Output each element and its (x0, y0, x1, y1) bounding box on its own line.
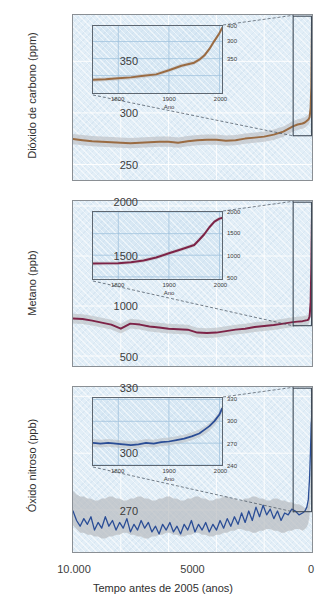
ytick-ch4-0: 500 (72, 351, 138, 363)
inset-ytick-co2-2: 400 (227, 23, 237, 29)
panel-n2o: 270 300 330 1800 1900 2000 Ano 240 270 3… (72, 386, 313, 553)
ytick-co2-0: 250 (72, 159, 138, 171)
xtick-0: 10.000 (57, 563, 91, 575)
inset-xlabel-ch4: Ano (164, 290, 175, 296)
inset-xtick-co2-2: 2000 (214, 96, 227, 102)
xaxis-title: Tempo antes de 2005 (anos) (30, 582, 296, 594)
inset-xtick-ch4-1: 1900 (162, 282, 175, 288)
ylabel-n2o: Óxido nitroso (ppb) (26, 383, 38, 548)
inset-xtick-ch4-2: 2000 (214, 282, 227, 288)
inset-ytick-n2o-3: 330 (227, 396, 237, 402)
inset-xlabel-n2o: Ano (164, 476, 175, 482)
inset-ytick-n2o-0: 240 (227, 463, 237, 469)
inset-gridlines-ch4 (93, 212, 222, 279)
inset-ytick-ch4-1: 1000 (227, 253, 240, 259)
xtick-1: 5000 (180, 563, 204, 575)
ytick-ch4-3: 2000 (72, 196, 138, 208)
ytick-n2o-1: 300 (72, 447, 138, 459)
ytick-n2o-2: 330 (72, 382, 138, 394)
inset-ytick-co2-0: 300 (227, 38, 237, 44)
inset-xtick-ch4-0: 1800 (111, 282, 124, 288)
ytick-n2o-0: 270 (72, 505, 138, 517)
ytick-co2-1: 300 (72, 107, 138, 119)
ytick-ch4-1: 1000 (72, 300, 138, 312)
highlight-box-ch4 (293, 202, 311, 326)
ylabel-co2: Dióxido de carbono (ppm) (26, 8, 38, 183)
ylabel-ch4: Metano (ppb) (26, 223, 38, 343)
inset-svg-ch4 (93, 212, 222, 279)
inset-ytick-ch4-3: 2000 (227, 209, 240, 215)
inset-ytick-ch4-2: 1500 (227, 230, 240, 236)
inset-xtick-co2-1: 1900 (162, 96, 175, 102)
inset-ytick-n2o-1: 270 (227, 441, 237, 447)
greenhouse-gas-figure: 250 300 350 1800 1900 2000 Ano 300 350 4… (0, 0, 326, 608)
inset-ytick-n2o-2: 300 (227, 418, 237, 424)
ytick-co2-2: 350 (72, 55, 138, 67)
inset-plot-ch4 (92, 211, 223, 280)
inset-ytick-ch4-0: 500 (227, 275, 237, 281)
ytick-ch4-2: 1500 (72, 250, 138, 262)
inset-xtick-n2o-1: 1900 (162, 468, 175, 474)
panel-co2: 250 300 350 1800 1900 2000 Ano 300 350 4… (72, 14, 313, 181)
inset-ytick-co2-1: 350 (227, 56, 237, 62)
panel-ch4: 500 1000 1500 2000 1800 1900 2000 Ano 50… (72, 200, 313, 367)
inset-xtick-co2-0: 1800 (111, 96, 124, 102)
inset-xlabel-co2: Ano (164, 104, 175, 110)
xtick-2: 0 (308, 563, 314, 575)
inset-xtick-n2o-0: 1800 (111, 468, 124, 474)
inset-xtick-n2o-2: 2000 (214, 468, 227, 474)
